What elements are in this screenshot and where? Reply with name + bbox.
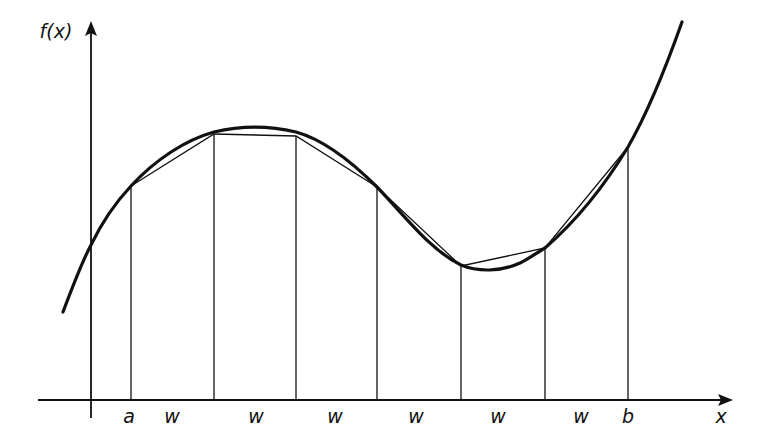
interval-width-label: w bbox=[248, 407, 264, 426]
x-axis-label: x bbox=[715, 407, 726, 426]
lower-limit-label: a bbox=[123, 407, 135, 426]
interval-width-label: w bbox=[327, 407, 343, 426]
interval-width-label: w bbox=[490, 407, 506, 426]
interval-width-label: w bbox=[408, 407, 424, 426]
trapezoidal-rule-diagram bbox=[0, 0, 763, 445]
interval-width-label: w bbox=[573, 407, 589, 426]
upper-limit-label: b bbox=[622, 407, 634, 426]
trapezoid-tops bbox=[131, 134, 628, 266]
axes bbox=[38, 21, 733, 418]
y-axis-label: f(x) bbox=[40, 22, 73, 41]
partition-lines bbox=[131, 134, 628, 400]
function-curve bbox=[63, 22, 682, 312]
interval-width-label: w bbox=[164, 407, 180, 426]
